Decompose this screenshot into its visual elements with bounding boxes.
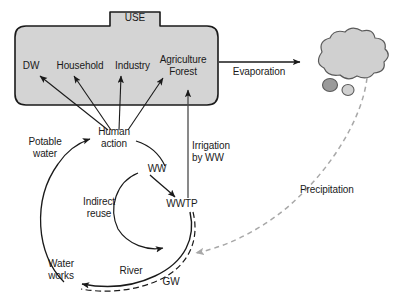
use-tab-label: USE [110,12,160,23]
cloud-droplet-light [342,85,354,96]
sector-label-industry: Industry [109,60,156,71]
cloud-icon [318,28,388,95]
precipitation-flow [196,78,367,253]
node-label-indirect-reuse: Indirect reuse [76,196,122,219]
sector-label-household: Household [51,60,109,71]
node-label-ww: WW [144,163,170,174]
flow-label-precipitation: Precipitation [300,184,370,195]
node-label-river: River [112,265,150,276]
water-cycle-diagram: USE DW Household Industry Agriculture Fo… [0,0,401,308]
cloud-droplet-dark [323,79,338,92]
node-label-human-action: Human action [90,126,138,149]
flow-label-irrigation-by-ww: Irrigation by WW [192,140,242,163]
node-label-wwtp: WWTP [162,198,202,209]
node-label-potable-water: Potable water [22,136,68,159]
node-label-gw: GW [158,276,184,287]
sector-label-dw: DW [14,60,48,71]
node-label-water-works: Water works [38,258,84,281]
sector-label-agriculture-forest: Agriculture Forest [154,54,212,77]
flow-label-evaporation: Evaporation [226,66,292,77]
